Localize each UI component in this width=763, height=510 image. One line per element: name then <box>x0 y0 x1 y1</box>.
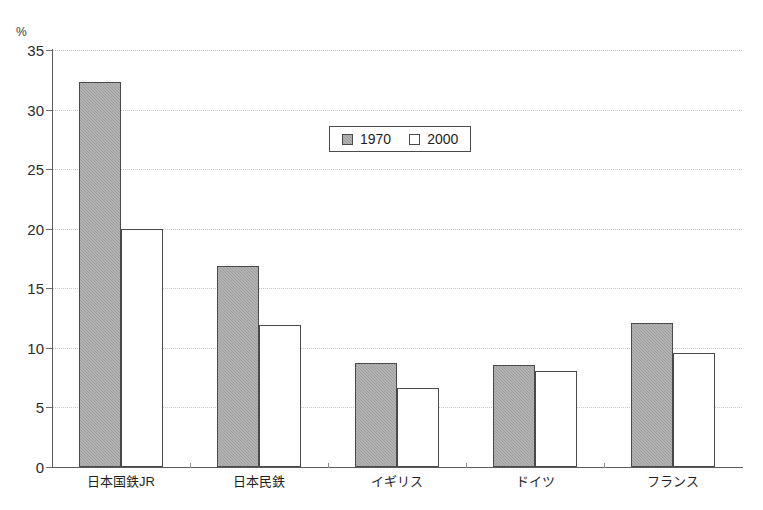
legend-swatch-2000-icon <box>409 134 420 145</box>
x-axis-tick-mark <box>328 463 329 468</box>
x-axis-tick-mark <box>190 463 191 468</box>
gridline <box>52 169 742 170</box>
legend-item-2000: 2000 <box>409 132 458 146</box>
bar-1970-1 <box>217 266 259 467</box>
chart-legend: 1970 2000 <box>329 126 471 152</box>
bar-2000-4 <box>673 353 715 467</box>
bar-chart: % 05101520253035 日本国鉄JR日本民鉄イギリスドイツフランス 1… <box>0 0 763 510</box>
x-axis-category-label: イギリス <box>328 474 466 490</box>
y-axis-tick-labels: 05101520253035 <box>0 0 44 510</box>
y-axis-tick-label: 0 <box>4 460 44 475</box>
y-axis-line <box>52 49 53 468</box>
y-axis-tick-label: 30 <box>4 103 44 118</box>
bar-1970-3 <box>493 365 535 467</box>
legend-item-1970: 1970 <box>342 132 391 146</box>
x-axis-category-label: 日本民鉄 <box>190 474 328 490</box>
x-axis-category-label: フランス <box>604 474 742 490</box>
plot-area <box>52 50 742 467</box>
y-axis-tick-label: 25 <box>4 162 44 177</box>
bar-2000-3 <box>535 371 577 468</box>
bar-2000-2 <box>397 388 439 467</box>
gridline <box>52 110 742 111</box>
x-axis-line <box>52 467 743 468</box>
y-axis-tick-label: 5 <box>4 400 44 415</box>
bar-1970-2 <box>355 363 397 467</box>
x-axis-tick-mark <box>604 463 605 468</box>
gridline <box>52 50 742 51</box>
legend-label-2000: 2000 <box>427 132 458 146</box>
y-axis-tick-label: 20 <box>4 222 44 237</box>
y-axis-tick-label: 35 <box>4 43 44 58</box>
y-axis-tick-label: 10 <box>4 341 44 356</box>
x-axis-category-label: 日本国鉄JR <box>52 474 190 490</box>
bar-1970-0 <box>79 82 121 467</box>
bar-2000-0 <box>121 229 163 467</box>
x-axis-category-label: ドイツ <box>466 474 604 490</box>
bar-1970-4 <box>631 323 673 467</box>
legend-label-1970: 1970 <box>360 132 391 146</box>
x-axis-tick-mark <box>466 463 467 468</box>
legend-swatch-1970-icon <box>342 134 353 145</box>
bar-2000-1 <box>259 325 301 467</box>
y-axis-tick-label: 15 <box>4 281 44 296</box>
